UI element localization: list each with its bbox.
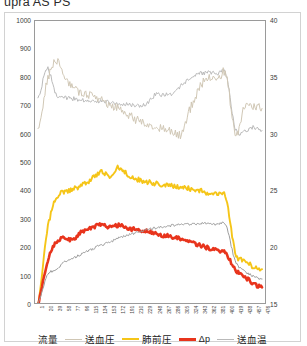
legend-label-arterial-pressure: 送血圧 [85, 332, 115, 346]
x-tick: 362 [211, 306, 217, 314]
x-tick: 457 [256, 306, 262, 314]
chart-screenshot: upra AS PS 10009008007006005004003002001… [0, 0, 307, 346]
y-axis-right-labels: 403530252015 [268, 13, 302, 311]
y-tick-left: 0 [27, 301, 31, 308]
x-tick: 248 [157, 306, 163, 314]
x-tick: 210 [138, 306, 144, 314]
x-tick: 58 [66, 306, 72, 311]
legend-label-delta-p: Δp [199, 334, 211, 344]
plot-area [34, 20, 266, 304]
series-Δp [38, 223, 262, 303]
y-tick-left: 200 [20, 244, 31, 251]
x-tick: 77 [75, 306, 81, 311]
x-tick: 96 [84, 306, 90, 311]
legend-item-flow[interactable]: 流量 [38, 332, 58, 346]
y-tick-right: 20 [270, 244, 277, 251]
y-tick-left: 400 [20, 187, 31, 194]
x-tick: 419 [238, 306, 244, 314]
x-tick: 476 [265, 306, 271, 314]
chart-legend: 流量送血圧肺前圧Δp送血温 [5, 330, 300, 346]
x-tick: 115 [93, 306, 99, 313]
x-tick: 324 [193, 306, 199, 314]
x-tick: 20 [48, 306, 54, 311]
series-流量 [38, 222, 262, 303]
x-tick: 305 [184, 306, 190, 314]
y-tick-left: 800 [20, 73, 31, 80]
y-tick-left: 100 [20, 272, 31, 279]
y-tick-left: 300 [20, 215, 31, 222]
y-tick-right: 25 [270, 187, 277, 194]
legend-item-arterial-pressure[interactable]: 送血圧 [65, 332, 115, 346]
x-axis-labels: 1203958779611513415317219121022924826728… [34, 306, 266, 332]
legend-swatch-pre-lung-pressure [122, 338, 139, 340]
x-tick: 153 [111, 306, 117, 314]
y-tick-left: 1000 [16, 17, 31, 24]
y-tick-right: 30 [270, 130, 277, 137]
y-axis-left-labels: 10009008007006005004003002001000 [5, 13, 34, 311]
legend-item-delta-p[interactable]: Δp [179, 334, 211, 344]
x-tick: 400 [229, 306, 235, 314]
page-title: upra AS PS [4, 0, 71, 9]
x-tick: 438 [247, 306, 253, 314]
legend-label-flow: 流量 [38, 332, 58, 346]
legend-swatch-arterial-pressure [65, 339, 82, 340]
legend-swatch-blood-temperature [217, 339, 234, 340]
y-tick-right: 40 [270, 17, 277, 24]
x-tick: 229 [147, 306, 153, 314]
y-tick-right: 15 [270, 301, 277, 308]
x-tick: 1 [39, 306, 45, 309]
y-tick-left: 700 [20, 102, 31, 109]
legend-label-pre-lung-pressure: 肺前圧 [142, 332, 172, 346]
chart-card: 10009008007006005004003002001000 4035302… [4, 12, 301, 342]
x-tick: 286 [175, 306, 181, 314]
x-tick: 134 [102, 306, 108, 314]
legend-item-blood-temperature[interactable]: 送血温 [217, 332, 267, 346]
x-tick: 39 [57, 306, 63, 311]
y-tick-left: 900 [20, 45, 31, 52]
x-tick: 267 [166, 306, 172, 314]
y-tick-right: 35 [270, 73, 277, 80]
legend-item-pre-lung-pressure[interactable]: 肺前圧 [122, 332, 172, 346]
x-tick: 343 [202, 306, 208, 314]
y-tick-left: 500 [20, 159, 31, 166]
x-tick: 172 [120, 306, 126, 314]
legend-label-blood-temperature: 送血温 [237, 332, 267, 346]
y-tick-left: 600 [20, 130, 31, 137]
x-tick: 191 [129, 306, 135, 314]
legend-swatch-delta-p [179, 338, 196, 341]
series-canvas [35, 21, 265, 303]
x-tick: 381 [220, 306, 226, 314]
